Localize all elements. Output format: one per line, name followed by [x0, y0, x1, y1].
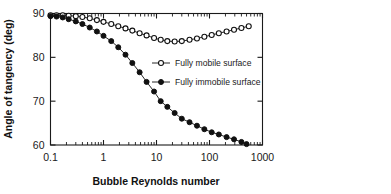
data-point	[66, 17, 71, 22]
data-point	[123, 26, 128, 31]
data-point	[172, 39, 177, 44]
legend-label: Fully immobile surface	[175, 77, 261, 87]
data-point	[48, 14, 53, 19]
data-point	[80, 15, 85, 20]
angle-of-tangency-chart: 0.11101001000 60708090 Fully mobile surf…	[0, 0, 391, 194]
data-point	[172, 111, 177, 116]
data-point	[116, 45, 121, 50]
data-point	[232, 27, 237, 32]
data-point	[165, 39, 170, 44]
data-point	[179, 39, 184, 44]
y-tick-label: 80	[33, 51, 45, 63]
x-tick-label: 0.1	[43, 151, 58, 163]
x-axis-tick-labels: 0.11101001000	[43, 151, 274, 163]
data-point	[202, 127, 207, 132]
x-tick-label: 1000	[251, 151, 275, 163]
x-tick-label: 100	[201, 151, 219, 163]
y-axis-tick-labels: 60708090	[33, 7, 45, 151]
legend-marker	[159, 61, 164, 66]
data-point	[87, 25, 92, 30]
data-point	[194, 123, 199, 128]
data-point	[158, 37, 163, 42]
data-point	[224, 135, 229, 140]
data-point	[202, 34, 207, 39]
data-point	[80, 22, 85, 27]
data-point	[73, 14, 78, 19]
data-point	[239, 139, 244, 144]
data-point	[224, 29, 229, 34]
legend-label: Fully mobile surface	[175, 58, 252, 68]
data-point	[123, 52, 128, 57]
data-point	[94, 29, 99, 34]
y-axis-title: Angle of tangency (deg)	[2, 19, 14, 139]
data-point	[144, 33, 149, 38]
data-point	[246, 24, 251, 29]
data-point	[187, 37, 192, 42]
x-axis-title: Bubble Reynolds number	[92, 175, 219, 187]
data-point	[144, 79, 149, 84]
data-point	[130, 28, 135, 33]
data-point	[87, 16, 92, 21]
data-point	[152, 36, 157, 41]
legend-marker	[159, 80, 164, 85]
data-point	[130, 61, 135, 66]
y-tick-label: 70	[33, 95, 45, 107]
data-point	[232, 137, 237, 142]
data-point	[137, 70, 142, 75]
data-point	[194, 36, 199, 41]
data-point	[73, 19, 78, 24]
data-point	[209, 130, 214, 135]
data-point	[187, 120, 192, 125]
data-point	[152, 89, 157, 94]
data-point	[209, 32, 214, 37]
y-tick-label: 90	[33, 7, 45, 19]
data-point	[158, 99, 163, 104]
data-point	[216, 31, 221, 36]
data-point	[54, 14, 59, 19]
data-point	[116, 24, 121, 29]
data-point	[179, 116, 184, 121]
x-tick-label: 1	[101, 151, 107, 163]
data-point	[101, 19, 106, 24]
data-point	[94, 18, 99, 23]
data-point	[109, 39, 114, 44]
y-tick-label: 60	[33, 139, 45, 151]
data-point	[109, 22, 114, 27]
data-point	[244, 142, 249, 147]
data-point	[165, 104, 170, 109]
data-point	[60, 15, 65, 20]
data-point	[101, 33, 106, 38]
x-tick-label: 10	[151, 151, 163, 163]
data-point	[239, 25, 244, 30]
data-point	[137, 31, 142, 36]
data-point	[216, 132, 221, 137]
chart-figure: 0.11101001000 60708090 Fully mobile surf…	[0, 0, 391, 194]
